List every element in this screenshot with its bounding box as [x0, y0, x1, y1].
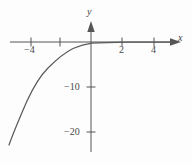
y-axis-label: y	[87, 7, 91, 17]
graph-figure: −4 2 4 −10 −20 y x	[0, 0, 192, 164]
x-tick-label-2: 2	[119, 45, 124, 55]
x-tick-label-4: 4	[151, 45, 156, 55]
x-tick-label-minus-4: −4	[24, 45, 35, 55]
x-axis-label: x	[178, 33, 182, 43]
y-tick-label-minus-20: −20	[64, 127, 80, 137]
plot-canvas	[0, 0, 192, 164]
exponential-curve	[9, 42, 171, 145]
y-tick-label-minus-10: −10	[64, 82, 80, 92]
